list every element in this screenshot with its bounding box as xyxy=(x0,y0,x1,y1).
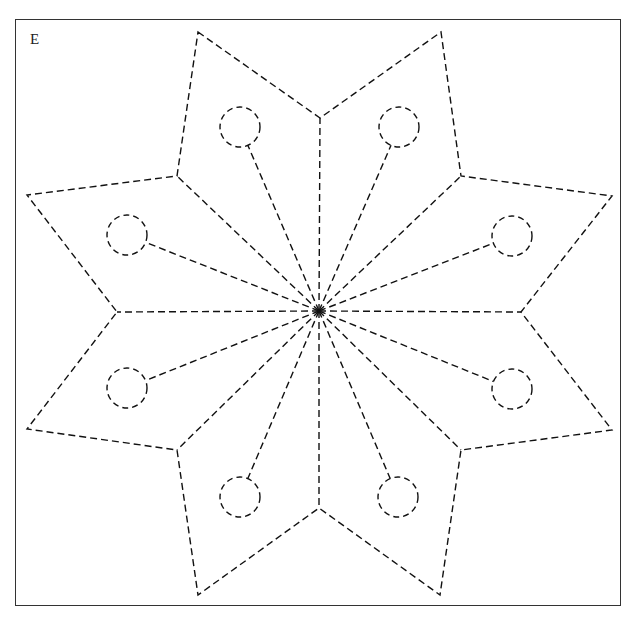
circle-stem-line xyxy=(319,145,391,311)
stitch-circle xyxy=(378,477,418,517)
stitch-circle xyxy=(220,477,260,517)
spoke-line xyxy=(319,311,521,312)
circle-stem-line xyxy=(319,311,390,479)
spoke-line xyxy=(319,176,461,311)
stitch-circle xyxy=(492,216,532,256)
circle-stem-line xyxy=(248,311,319,479)
spoke-line xyxy=(177,176,319,311)
circle-stem-line xyxy=(319,311,493,382)
stitch-circle xyxy=(379,107,419,147)
spoke-line xyxy=(319,311,461,450)
circle-stem-line xyxy=(146,242,319,311)
circle-stem-line xyxy=(248,145,319,311)
stitch-circle xyxy=(107,215,147,255)
stitch-circle xyxy=(492,369,532,409)
circle-stem-line xyxy=(146,311,319,381)
spoke-line xyxy=(117,311,319,312)
spoke-line xyxy=(319,118,320,311)
star-pattern xyxy=(0,0,635,617)
spoke-line xyxy=(177,311,319,450)
circle-stem-line xyxy=(319,243,493,311)
stitch-circle xyxy=(107,368,147,408)
stitch-circle xyxy=(220,107,260,147)
